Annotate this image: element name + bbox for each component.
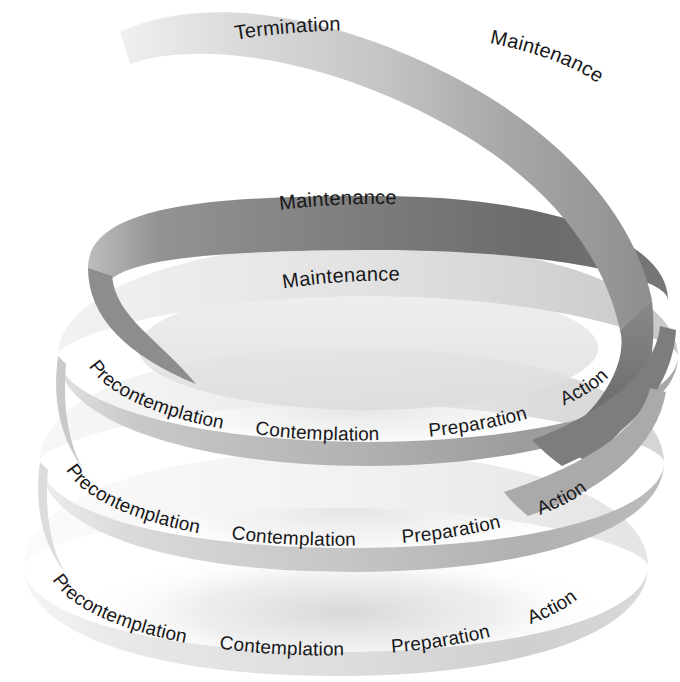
label-maintenance-top: Maintenance	[489, 25, 608, 86]
stages-of-change-spiral: Termination Maintenance Maintenance Main…	[0, 0, 680, 682]
spiral-diagram-canvas: Termination Maintenance Maintenance Main…	[0, 0, 680, 682]
